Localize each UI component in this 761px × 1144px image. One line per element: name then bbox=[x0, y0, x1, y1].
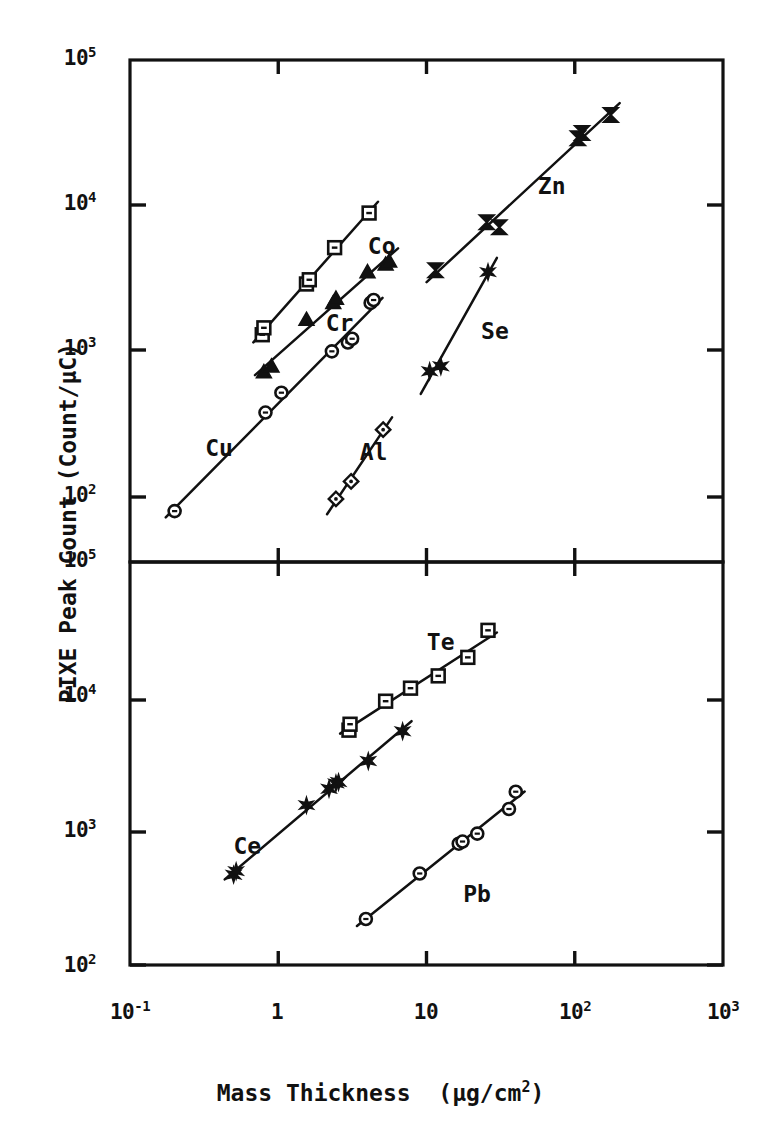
fit-line-bottom-Pb bbox=[357, 791, 525, 925]
svg-root bbox=[130, 60, 723, 965]
series-label-cr: Cr bbox=[326, 310, 354, 336]
data-point-top-Al-0-dot bbox=[334, 497, 338, 501]
series-label-al: Al bbox=[360, 439, 388, 465]
series-label-cu: Cu bbox=[205, 435, 233, 461]
xtick-label-10: 10 bbox=[381, 1000, 471, 1024]
series-label-pb: Pb bbox=[463, 881, 491, 907]
xtick-label-1: 1 bbox=[232, 1000, 322, 1024]
plot-canvas bbox=[0, 0, 761, 1144]
series-label-co: Co bbox=[368, 233, 396, 259]
data-point-top-Zn-2 bbox=[492, 220, 506, 234]
xtick-label-1e2: 102 bbox=[530, 1000, 620, 1024]
xtick-label-1e3: 103 bbox=[678, 1000, 761, 1024]
series-label-zn: Zn bbox=[538, 173, 566, 199]
fit-line-bottom-Te bbox=[340, 633, 497, 734]
y-axis-title: PIXE Peak Count (Count/μC) bbox=[55, 243, 81, 803]
data-point-top-Co-2 bbox=[299, 312, 314, 325]
xtick-label-1e-1: 10-1 bbox=[85, 1000, 175, 1024]
data-point-top-Al-1-dot bbox=[349, 479, 353, 483]
x-axis-title: Mass Thickness (μg/cm2) bbox=[0, 1080, 761, 1106]
ytick-label-bottom-1e3: 103 bbox=[26, 818, 96, 842]
pixe-calibration-figure: 105 104 103 102 105 104 103 102 10-1 1 1… bbox=[0, 0, 761, 1144]
ytick-label-top-1e4: 104 bbox=[26, 191, 96, 215]
plot-frame-top bbox=[130, 60, 723, 562]
fit-line-top-Zn bbox=[427, 103, 620, 282]
series-label-se: Se bbox=[481, 318, 509, 344]
data-point-top-Al-2-dot bbox=[381, 428, 385, 432]
plot-frame-bottom bbox=[130, 562, 723, 965]
series-label-ce: Ce bbox=[233, 833, 261, 859]
ytick-label-top-1e5: 105 bbox=[26, 46, 96, 70]
ytick-label-bottom-1e2: 102 bbox=[26, 953, 96, 977]
series-label-te: Te bbox=[427, 629, 455, 655]
